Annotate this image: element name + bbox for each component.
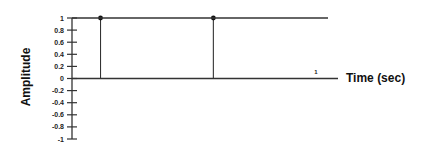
y-tick-label: 0.2 bbox=[54, 63, 64, 70]
x-tick-label: 1 bbox=[314, 69, 318, 75]
y-tick-label: -0.8 bbox=[52, 123, 64, 130]
y-tick-label: 1 bbox=[60, 15, 64, 22]
y-tick-label: -0.2 bbox=[52, 87, 64, 94]
y-tick-label: -1 bbox=[58, 136, 64, 143]
y-tick-label: 0 bbox=[60, 75, 64, 82]
x-axis: 1 bbox=[72, 69, 338, 79]
y-tick-label: 0.8 bbox=[54, 27, 64, 34]
plot-marks bbox=[72, 16, 328, 79]
y-tick-label: 0.6 bbox=[54, 39, 64, 46]
y-tick-label: -0.6 bbox=[52, 111, 64, 118]
stem-chart: 10.80.60.40.20-0.2-0.4-0.6-0.8-1 1 Ampli… bbox=[0, 0, 432, 151]
x-axis-label: Time (sec) bbox=[346, 71, 405, 85]
y-tick-label: -0.4 bbox=[52, 99, 64, 106]
y-axis-label: Amplitude bbox=[19, 47, 33, 106]
y-tick-label: 0.4 bbox=[54, 51, 64, 58]
